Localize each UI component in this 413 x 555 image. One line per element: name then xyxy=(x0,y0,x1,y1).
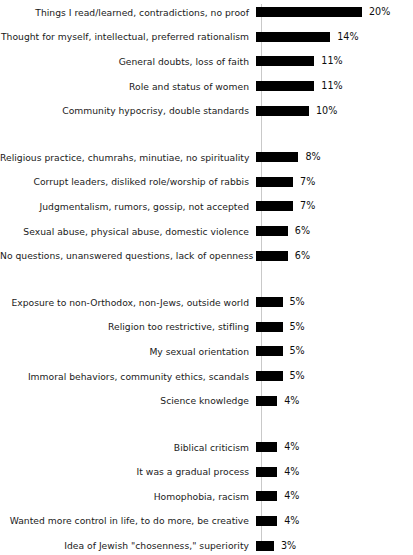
bar[interactable] xyxy=(256,491,277,501)
bar-row-label: Sexual abuse, physical abuse, domestic v… xyxy=(0,226,255,237)
bar[interactable] xyxy=(256,251,288,261)
bar-group: Exposure to non-Orthodox, non-Jews, outs… xyxy=(0,290,413,413)
bar-track: 10% xyxy=(255,98,413,123)
bar[interactable] xyxy=(256,81,314,91)
bar-track: 4% xyxy=(255,388,413,413)
bar-track: 7% xyxy=(255,194,413,219)
bar-track: 5% xyxy=(255,339,413,364)
bar-value-label: 6% xyxy=(295,251,310,261)
bar[interactable] xyxy=(256,7,362,17)
bar-row[interactable]: Religion too restrictive, stifling5% xyxy=(0,315,413,340)
bar[interactable] xyxy=(256,106,309,116)
bar-value-label: 5% xyxy=(290,346,305,356)
bar-row[interactable]: Things I read/learned, contradictions, n… xyxy=(0,0,413,25)
bar-row[interactable]: Sexual abuse, physical abuse, domestic v… xyxy=(0,219,413,244)
bar-row[interactable]: Role and status of women11% xyxy=(0,74,413,99)
bar-row-label: Community hypocrisy, double standards xyxy=(0,105,255,116)
bar-track: 14% xyxy=(255,25,413,50)
group-separator xyxy=(0,123,413,145)
bar-row[interactable]: My sexual orientation5% xyxy=(0,339,413,364)
bar-value-label: 5% xyxy=(290,322,305,332)
bar[interactable] xyxy=(256,322,283,332)
bar[interactable] xyxy=(256,396,277,406)
group-separator xyxy=(0,413,413,435)
bar-row-label: Wanted more control in life, to do more,… xyxy=(0,515,255,526)
bar-row[interactable]: No questions, unanswered questions, lack… xyxy=(0,243,413,268)
bar-row[interactable]: It was a gradual process4% xyxy=(0,460,413,485)
bar-row[interactable]: General doubts, loss of faith11% xyxy=(0,49,413,74)
bar[interactable] xyxy=(256,56,314,66)
bar-row[interactable]: Immoral behaviors, community ethics, sca… xyxy=(0,364,413,389)
bar-value-label: 7% xyxy=(300,201,315,211)
group-separator xyxy=(0,268,413,290)
chart-rows: Things I read/learned, contradictions, n… xyxy=(0,0,413,555)
bar-row[interactable]: Homophobia, racism4% xyxy=(0,484,413,509)
bar-track: 6% xyxy=(255,219,413,244)
bar[interactable] xyxy=(256,516,277,526)
bar-track: 8% xyxy=(255,145,413,170)
bar[interactable] xyxy=(256,541,274,551)
bar[interactable] xyxy=(256,226,288,236)
bar-track: 5% xyxy=(255,290,413,315)
bar[interactable] xyxy=(256,371,283,381)
bar-value-label: 20% xyxy=(369,7,390,17)
bar[interactable] xyxy=(256,201,293,211)
bar-row-label: My sexual orientation xyxy=(0,346,255,357)
bar-row-label: Things I read/learned, contradictions, n… xyxy=(0,7,255,18)
bar-value-label: 4% xyxy=(284,516,299,526)
bar-row[interactable]: Thought for myself, intellectual, prefer… xyxy=(0,25,413,50)
bar-group: Biblical criticism4%It was a gradual pro… xyxy=(0,435,413,555)
bar-row-label: Exposure to non-Orthodox, non-Jews, outs… xyxy=(0,297,255,308)
bar-row-label: Corrupt leaders, disliked role/worship o… xyxy=(0,176,255,187)
bar-value-label: 7% xyxy=(300,177,315,187)
bar-row-label: Religious practice, chumrahs, minutiae, … xyxy=(0,152,255,163)
bar-value-label: 6% xyxy=(295,226,310,236)
bar[interactable] xyxy=(256,297,283,307)
bar-value-label: 5% xyxy=(290,297,305,307)
bar[interactable] xyxy=(256,346,283,356)
bar[interactable] xyxy=(256,177,293,187)
bar-track: 4% xyxy=(255,460,413,485)
bar-row-label: Religion too restrictive, stifling xyxy=(0,321,255,332)
bar[interactable] xyxy=(256,152,298,162)
bar-row-label: No questions, unanswered questions, lack… xyxy=(0,250,255,261)
bar-value-label: 11% xyxy=(321,81,342,91)
bar-group: Religious practice, chumrahs, minutiae, … xyxy=(0,145,413,268)
bar-row-label: Immoral behaviors, community ethics, sca… xyxy=(0,371,255,382)
bar-row[interactable]: Wanted more control in life, to do more,… xyxy=(0,509,413,534)
bar-track: 4% xyxy=(255,435,413,460)
bar-track: 7% xyxy=(255,170,413,195)
bar-track: 5% xyxy=(255,315,413,340)
bar-row[interactable]: Biblical criticism4% xyxy=(0,435,413,460)
bar-track: 6% xyxy=(255,243,413,268)
bar-row-label: Idea of Jewish "chosenness," superiority xyxy=(0,540,255,551)
bar[interactable] xyxy=(256,467,277,477)
bar-row-label: Thought for myself, intellectual, prefer… xyxy=(0,31,255,42)
bar-row-label: Judgmentalism, rumors, gossip, not accep… xyxy=(0,201,255,212)
bar-row[interactable]: Religious practice, chumrahs, minutiae, … xyxy=(0,145,413,170)
bar-row[interactable]: Science knowledge4% xyxy=(0,388,413,413)
bar-value-label: 5% xyxy=(290,371,305,381)
bar-row[interactable]: Corrupt leaders, disliked role/worship o… xyxy=(0,170,413,195)
bar-row-label: It was a gradual process xyxy=(0,466,255,477)
bar-value-label: 11% xyxy=(321,56,342,66)
bar[interactable] xyxy=(256,32,330,42)
bar-group: Things I read/learned, contradictions, n… xyxy=(0,0,413,123)
bar-track: 11% xyxy=(255,74,413,99)
bar-row-label: Biblical criticism xyxy=(0,442,255,453)
bar-value-label: 3% xyxy=(281,541,296,551)
bar-track: 11% xyxy=(255,49,413,74)
bar-row[interactable]: Judgmentalism, rumors, gossip, not accep… xyxy=(0,194,413,219)
bar-row[interactable]: Idea of Jewish "chosenness," superiority… xyxy=(0,533,413,555)
bar-row[interactable]: Exposure to non-Orthodox, non-Jews, outs… xyxy=(0,290,413,315)
bar-value-label: 4% xyxy=(284,467,299,477)
bar-value-label: 14% xyxy=(337,32,358,42)
bar-track: 4% xyxy=(255,484,413,509)
bar-value-label: 4% xyxy=(284,491,299,501)
bar-row-label: General doubts, loss of faith xyxy=(0,56,255,67)
bar[interactable] xyxy=(256,442,277,452)
bar-track: 20% xyxy=(255,0,413,25)
bar-value-label: 4% xyxy=(284,396,299,406)
bar-row[interactable]: Community hypocrisy, double standards10% xyxy=(0,98,413,123)
